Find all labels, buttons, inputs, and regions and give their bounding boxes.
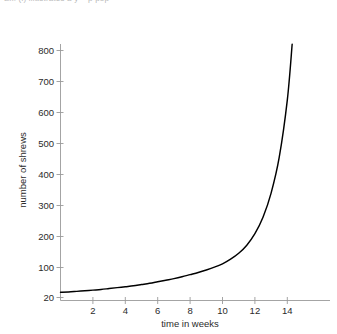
y-tick-label: 500 [38,138,54,149]
exponential-growth-chart: 800 700 600 500 400 300 200 100 20 2 4 6… [0,0,337,334]
x-tick-label: 10 [217,305,228,316]
x-tick-label: 6 [155,305,160,316]
y-tick-label: 300 [38,200,54,211]
x-tick-label: 2 [90,305,95,316]
x-tick-labels: 2 4 6 8 10 12 14 [90,305,292,316]
y-tick-marks [57,51,64,298]
y-tick-label: 100 [38,262,54,273]
shrew-population-figure: Ex. (i) illustrates a y = p pop 800 700 … [0,0,337,334]
y-tick-labels: 800 700 600 500 400 300 200 100 20 [38,45,54,303]
y-tick-label: 600 [38,107,54,118]
x-tick-label: 4 [123,305,128,316]
x-tick-label: 14 [282,305,293,316]
x-tick-label: 12 [250,305,261,316]
x-tick-label: 8 [187,305,192,316]
x-axis-title: time in weeks [161,318,219,329]
y-axis-title: number of shrews [17,132,28,208]
y-tick-label: 800 [38,45,54,56]
y-tick-label: 20 [43,292,54,303]
population-curve [61,44,293,292]
y-tick-label: 200 [38,231,54,242]
y-tick-label: 700 [38,76,54,87]
y-tick-label: 400 [38,169,54,180]
